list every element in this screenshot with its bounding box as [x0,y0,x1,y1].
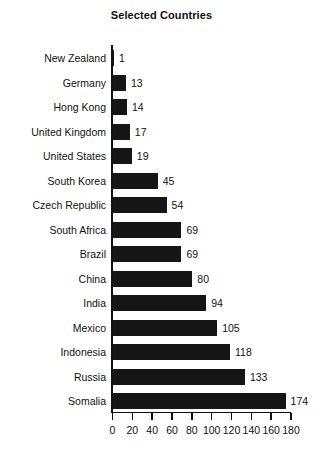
value-axis-line [111,412,291,414]
bar-value-label: 1 [119,45,125,71]
bar-value-label: 94 [211,290,223,316]
bar-value-label: 19 [137,143,149,169]
category-label: South Korea [0,168,106,194]
bar-row: South Africa69 [0,217,323,243]
bar-value-label: 118 [235,339,252,365]
category-label: Russia [0,364,106,390]
category-label: Hong Kong [0,94,106,120]
bar-row: China80 [0,266,323,292]
bar-value-label: 14 [132,94,144,120]
bar [113,369,245,385]
plot-area: New Zealand1Germany13Hong Kong14United K… [0,0,323,462]
bar [113,173,158,189]
x-axis-tick [251,413,252,420]
category-label: United Kingdom [0,119,106,145]
x-axis-tick [132,413,133,420]
bar [113,344,230,360]
bar-value-label: 69 [186,241,198,267]
category-label: Germany [0,70,106,96]
bar [113,75,126,91]
category-label: Indonesia [0,339,106,365]
category-label: United States [0,143,106,169]
bar [113,148,132,164]
bar [113,99,127,115]
bar-value-label: 105 [222,315,240,341]
x-axis-tick [112,413,113,420]
bar [113,295,206,311]
bar-row: Brazil69 [0,241,323,267]
bar-row: Germany13 [0,70,323,96]
bar-row: Russia133 [0,364,323,390]
bar-value-label: 45 [163,168,175,194]
category-label: Somalia [0,388,106,414]
category-label: New Zealand [0,45,106,71]
category-label: China [0,266,106,292]
bar-value-label: 174 [291,388,309,414]
bar-chart: Selected Countries New Zealand1Germany13… [0,0,323,462]
category-label: Mexico [0,315,106,341]
bar-row: United Kingdom17 [0,119,323,145]
bar-row: New Zealand1 [0,45,323,71]
category-label: India [0,290,106,316]
category-label: Brazil [0,241,106,267]
bar-row: Hong Kong14 [0,94,323,120]
bar-row: Somalia174 [0,388,323,414]
x-axis-tick-label: 180 [271,423,311,437]
bar-row: South Korea45 [0,168,323,194]
bar-value-label: 133 [250,364,268,390]
bar-row: Czech Republic54 [0,192,323,218]
bar [113,50,114,66]
x-axis-tick [151,413,152,420]
x-axis-tick [290,413,291,420]
bar-value-label: 17 [135,119,147,145]
bar [113,246,181,262]
bar [113,393,286,409]
bar [113,197,167,213]
bar-row: United States19 [0,143,323,169]
bar [113,124,130,140]
x-axis-tick [191,413,192,420]
bar [113,271,192,287]
bar-value-label: 54 [172,192,184,218]
x-axis-tick [171,413,172,420]
bar-value-label: 80 [197,266,209,292]
bar [113,222,181,238]
bar-row: India94 [0,290,323,316]
bar-value-label: 69 [186,217,198,243]
category-label: South Africa [0,217,106,243]
category-label: Czech Republic [0,192,106,218]
bar [113,320,217,336]
bar-value-label: 13 [131,70,143,96]
category-axis-line [111,45,113,413]
x-axis-tick [270,413,271,420]
bar-row: Mexico105 [0,315,323,341]
x-axis-tick [211,413,212,420]
bar-row: Indonesia118 [0,339,323,365]
x-axis-tick [231,413,232,420]
